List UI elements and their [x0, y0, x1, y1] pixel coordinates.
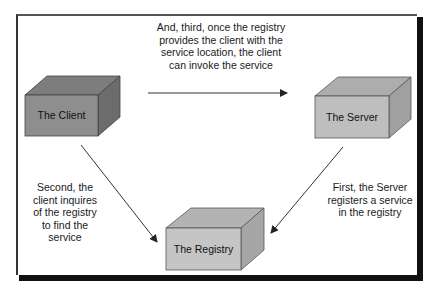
- registry-label: The Registry: [166, 243, 241, 255]
- server-cube-icon: [315, 77, 411, 138]
- service-registry-diagram: The Client The Server The Registry And, …: [0, 0, 439, 292]
- client-label: The Client: [25, 109, 98, 121]
- server-label: The Server: [315, 111, 389, 123]
- caption-third-step: And, third, once the registry provides t…: [150, 21, 292, 71]
- client-cube-icon: [25, 76, 120, 136]
- registry-cube-icon: [166, 208, 264, 270]
- caption-first-step: First, the Server registers a service in…: [322, 181, 418, 219]
- caption-second-step: Second, the client inquires of the regis…: [26, 181, 104, 244]
